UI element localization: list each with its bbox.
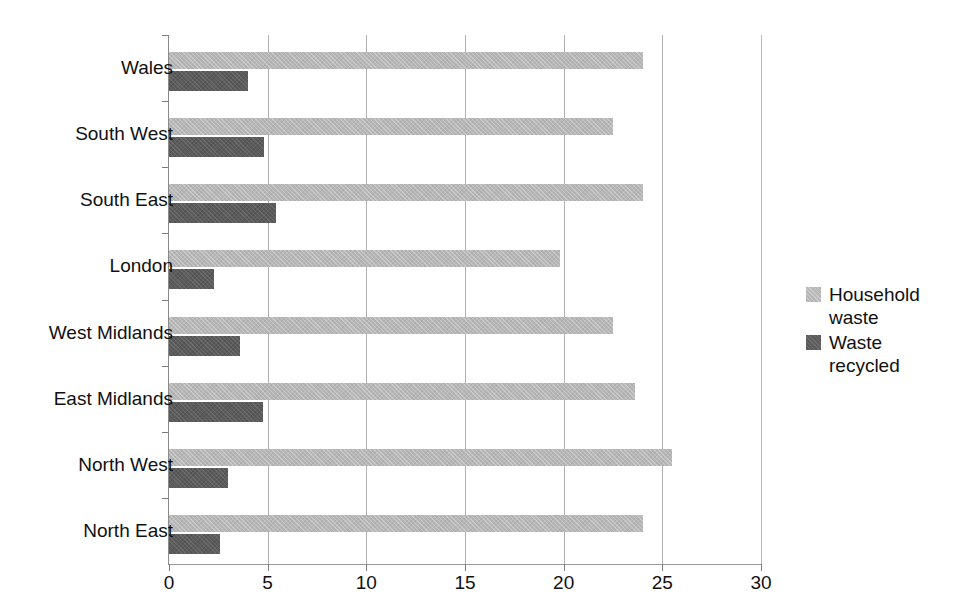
x-axis-tick-label: 5 xyxy=(262,572,273,594)
x-axis-tick-label: 25 xyxy=(652,572,673,594)
y-axis-category-label: West Midlands xyxy=(49,322,173,344)
y-axis-tick xyxy=(162,101,169,102)
gridline-x-30 xyxy=(761,35,762,564)
x-axis-tick-label: 15 xyxy=(454,572,475,594)
y-axis-category-label: South East xyxy=(80,189,173,211)
bar-household-waste xyxy=(169,317,613,334)
y-axis-category-label: North East xyxy=(83,520,173,542)
x-axis-tick-5 xyxy=(268,564,269,571)
x-axis-tick-10 xyxy=(366,564,367,571)
bar-chart: 051015202530 WalesSouth WestSouth EastLo… xyxy=(0,0,955,616)
gridline-x-10 xyxy=(366,35,367,564)
legend-label-waste-recycled: Waste recycled xyxy=(829,331,951,377)
bar-waste-recycled xyxy=(169,71,248,91)
bar-waste-recycled xyxy=(169,468,228,488)
x-axis-tick-label: 10 xyxy=(356,572,377,594)
x-axis-tick-0 xyxy=(169,564,170,571)
y-axis-tick xyxy=(162,233,169,234)
chart-legend: Household waste Waste recycled xyxy=(806,283,951,379)
bar-household-waste xyxy=(169,449,672,466)
y-axis-tick xyxy=(162,167,169,168)
bar-household-waste xyxy=(169,383,635,400)
legend-swatch-icon-household-waste xyxy=(806,287,821,302)
y-axis-tick xyxy=(162,300,169,301)
bar-household-waste xyxy=(169,250,560,267)
y-axis-tick xyxy=(162,366,169,367)
gridline-x-5 xyxy=(268,35,269,564)
x-axis-tick-label: 0 xyxy=(164,572,175,594)
bar-waste-recycled xyxy=(169,402,263,422)
x-axis-tick-20 xyxy=(564,564,565,571)
legend-entry-waste-recycled: Waste recycled xyxy=(806,331,951,377)
bar-waste-recycled xyxy=(169,269,214,289)
bar-household-waste xyxy=(169,184,643,201)
legend-swatch-icon-waste-recycled xyxy=(806,335,821,350)
y-axis-category-label: Wales xyxy=(121,57,173,79)
y-axis-category-label: North West xyxy=(78,454,173,476)
y-axis-tick xyxy=(162,498,169,499)
x-axis-tick-label: 30 xyxy=(750,572,771,594)
y-axis-category-label: London xyxy=(110,255,173,277)
plot-area xyxy=(169,35,761,564)
x-axis-tick-30 xyxy=(761,564,762,571)
gridline-x-15 xyxy=(465,35,466,564)
y-axis-category-label: East Midlands xyxy=(54,388,173,410)
bar-waste-recycled xyxy=(169,137,264,157)
bar-household-waste xyxy=(169,515,643,532)
gridline-x-25 xyxy=(662,35,663,564)
y-axis-tick xyxy=(162,432,169,433)
bar-waste-recycled xyxy=(169,336,240,356)
legend-label-household-waste: Household waste xyxy=(829,283,951,329)
x-axis-tick-15 xyxy=(465,564,466,571)
y-axis-tick xyxy=(162,35,169,36)
bar-waste-recycled xyxy=(169,534,220,554)
legend-entry-household-waste: Household waste xyxy=(806,283,951,329)
bar-household-waste xyxy=(169,52,643,69)
x-axis-tick-label: 20 xyxy=(553,572,574,594)
gridline-x-20 xyxy=(564,35,565,564)
x-axis-tick-25 xyxy=(662,564,663,571)
bar-waste-recycled xyxy=(169,203,276,223)
bar-household-waste xyxy=(169,118,613,135)
y-axis-category-label: South West xyxy=(75,123,173,145)
